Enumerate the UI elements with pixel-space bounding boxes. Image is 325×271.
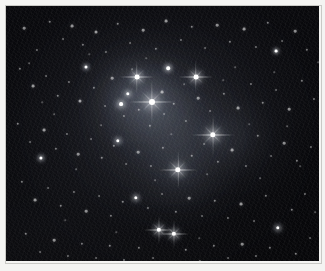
print-border-left	[0, 0, 6, 271]
photograph-frame: Pleiades open star cluster with reflecti…	[0, 0, 325, 271]
sky-plate	[6, 6, 319, 261]
print-border-bottom	[0, 261, 325, 271]
print-border-right	[319, 0, 325, 271]
film-grain-overlay	[6, 6, 319, 261]
print-border-top	[0, 0, 325, 6]
